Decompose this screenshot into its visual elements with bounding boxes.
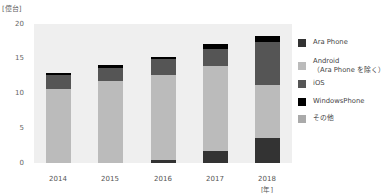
y-tick-20: 20 bbox=[2, 20, 24, 28]
bar-segment bbox=[151, 59, 176, 74]
bar-segment bbox=[151, 75, 176, 160]
bar-segment bbox=[151, 160, 176, 163]
legend-item-ara-phone: Ara Phone bbox=[298, 38, 382, 47]
bar-segment bbox=[98, 81, 123, 163]
x-tick-2015: 2015 bbox=[90, 175, 130, 183]
bar-segment bbox=[255, 42, 280, 85]
legend-swatch-icon bbox=[298, 80, 306, 88]
bar-2016 bbox=[151, 57, 176, 163]
legend-swatch-icon bbox=[298, 98, 306, 106]
y-tick-0: 0 bbox=[2, 159, 24, 167]
y-tick-10: 10 bbox=[2, 89, 24, 97]
legend-swatch-icon bbox=[298, 62, 306, 70]
legend-label: iOS bbox=[313, 79, 325, 88]
bar-segment bbox=[46, 75, 71, 88]
y-tick-15: 15 bbox=[2, 54, 24, 62]
y-tick-5: 5 bbox=[2, 124, 24, 132]
x-tick-2018: 2018 bbox=[247, 175, 287, 183]
legend-swatch-icon bbox=[298, 39, 306, 47]
y-axis-unit-label: [億台] bbox=[2, 3, 21, 13]
x-tick-2016: 2016 bbox=[143, 175, 183, 183]
legend-label: Android （Ara Phone を除く） bbox=[313, 57, 382, 75]
bar-2017 bbox=[203, 44, 228, 163]
legend-item-windowsphone: WindowsPhone bbox=[298, 97, 382, 106]
bar-segment bbox=[255, 138, 280, 163]
x-tick-2014: 2014 bbox=[38, 175, 78, 183]
x-axis-unit-label: [年] bbox=[261, 184, 273, 194]
bar-2018 bbox=[255, 36, 280, 163]
bar-segment bbox=[203, 66, 228, 151]
legend-swatch-icon bbox=[298, 115, 306, 123]
legend-item-ios: iOS bbox=[298, 79, 382, 88]
legend-label: その他 bbox=[313, 114, 334, 123]
legend-label: Ara Phone bbox=[313, 38, 348, 47]
legend-item-other: その他 bbox=[298, 114, 382, 123]
bar-2014 bbox=[46, 73, 71, 163]
bar-segment bbox=[203, 151, 228, 163]
bar-segment bbox=[255, 85, 280, 138]
legend-label: WindowsPhone bbox=[313, 97, 364, 106]
bar-segment bbox=[98, 68, 123, 81]
bar-segment bbox=[203, 49, 228, 66]
plot-area bbox=[34, 24, 292, 163]
bar-2015 bbox=[98, 65, 123, 163]
x-tick-2017: 2017 bbox=[195, 175, 235, 183]
bar-segment bbox=[46, 89, 71, 163]
legend-item-android: Android （Ara Phone を除く） bbox=[298, 57, 382, 75]
